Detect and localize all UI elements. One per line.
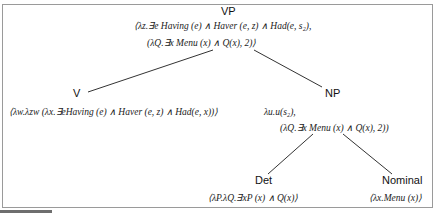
- node-nominal-label: Nominal: [382, 174, 422, 186]
- node-det-label: Det: [255, 174, 272, 186]
- node-det-semantics: ⟨λP.λQ.∃xP (x) ∧ Q(x)⟩: [208, 192, 298, 204]
- node-np-label: NP: [325, 87, 340, 99]
- node-nominal-semantics: ⟨λx.Menu (x)⟩: [369, 192, 422, 204]
- node-v-label: V: [73, 87, 80, 99]
- node-np-semantics-line2: (λQ.∃x Menu (x) ∧ Q(x), 2)): [280, 122, 389, 134]
- node-vp-semantics-line2: (λQ.∃x Menu (x) ∧ Q(x), 2)⟩: [147, 37, 256, 49]
- edge-vp-np: [254, 50, 322, 87]
- node-vp-label: VP: [221, 5, 236, 17]
- edge-np-det: [268, 134, 313, 174]
- node-v-semantics: ⟨λw.λzw (λx.∃eHaving (e) ∧ Haver (e, z) …: [9, 106, 218, 118]
- node-np-semantics-line1: λu.u(s₂),: [264, 106, 296, 118]
- edge-vp-v: [88, 50, 213, 92]
- edge-np-nominal: [343, 134, 392, 174]
- node-vp-semantics-line1: ⟨λz.∃e Having (e) ∧ Haver (e, z) ∧ Had(e…: [134, 20, 311, 32]
